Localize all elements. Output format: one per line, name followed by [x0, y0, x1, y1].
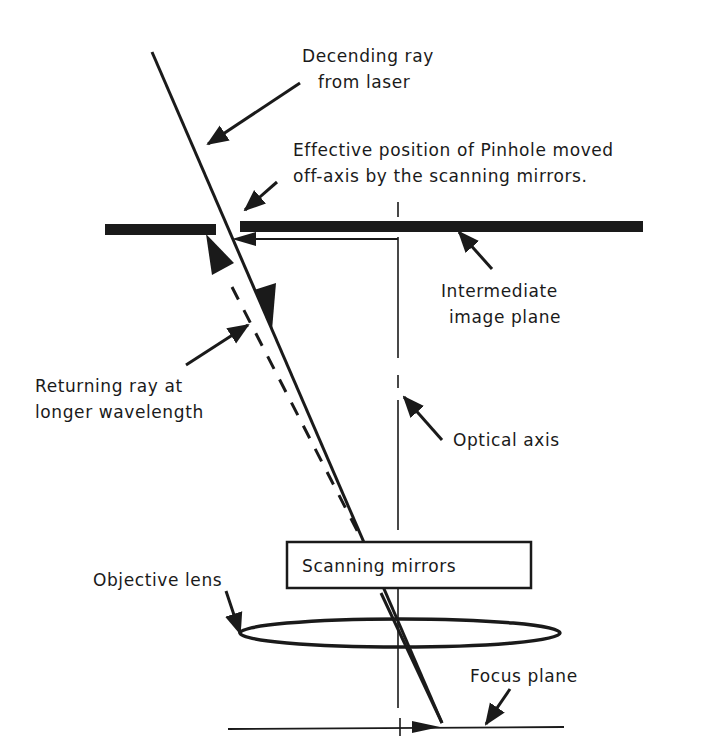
scanning-mirrors-box: Scanning mirrors [287, 542, 531, 588]
focus-plane [228, 721, 564, 733]
ray-below-box [381, 593, 442, 723]
returning-ray-arrowhead [206, 234, 234, 275]
pinhole-offset-arrow [232, 232, 398, 246]
intermediate-image-plane-right [240, 221, 643, 232]
intermediate-plane-label-line1: Intermediate [441, 281, 558, 301]
objective-lens-pointer [226, 591, 240, 633]
pinhole-label-line2: off-axis by the scanning mirrors. [293, 166, 588, 186]
descending-ray-label-line2: from laser [318, 72, 410, 92]
returning-ray [232, 287, 362, 540]
focus-plane-pointer [486, 689, 510, 724]
returning-ray-label-line1: Returning ray at [35, 376, 183, 396]
returning-ray-pointer [186, 325, 248, 365]
scanning-mirrors-label: Scanning mirrors [302, 556, 456, 576]
descending-ray-label-line1: Decending ray [302, 46, 434, 66]
intermediate-plane-label-line2: image plane [449, 307, 561, 327]
focus-plane-label: Focus plane [470, 666, 578, 686]
descending-ray-pointer [208, 83, 300, 144]
pinhole-pointer [245, 182, 277, 210]
objective-lens-label: Objective lens [93, 570, 222, 590]
intermediate-plane-pointer [459, 232, 492, 269]
pinhole-label-line1: Effective position of Pinhole moved [293, 140, 614, 160]
optical-axis-pointer [404, 397, 442, 440]
optical-axis-label: Optical axis [453, 430, 560, 450]
returning-ray-label-line2: longer wavelength [35, 402, 204, 422]
intermediate-image-plane [105, 224, 216, 235]
descending-ray-arrowhead [254, 283, 276, 330]
optical-axis [398, 202, 400, 736]
optics-diagram: Scanning mirrors Decending ray from lase… [0, 0, 722, 756]
